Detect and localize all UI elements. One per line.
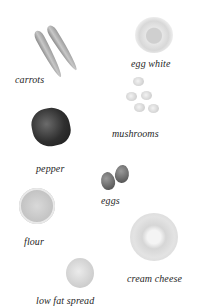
eggs-item: eggs [99,160,149,210]
flour-item: flour [0,185,80,255]
egg-white-image [135,17,173,53]
cream-cheese-image [130,213,178,261]
low-fat-spread-image [66,258,94,288]
mushrooms-item: mushrooms [99,75,198,140]
carrots-item: carrots [0,0,99,90]
eggs-label: eggs [101,195,120,206]
flour-label: flour [24,236,44,247]
pepper-label: pepper [36,163,64,174]
pepper-image [28,104,73,149]
mushrooms-label: mushrooms [112,128,159,139]
egg-white-item: egg white [99,0,198,75]
low-fat-spread-item: low fat spread [30,255,130,308]
carrots-label: carrots [15,74,44,85]
flour-image [19,188,55,224]
cream-cheese-label: cream cheese [127,273,182,284]
pepper-item: pepper [0,100,99,180]
egg-white-label: egg white [131,58,171,69]
low-fat-spread-label: low fat spread [36,295,94,306]
cream-cheese-item: cream cheese [120,205,198,285]
